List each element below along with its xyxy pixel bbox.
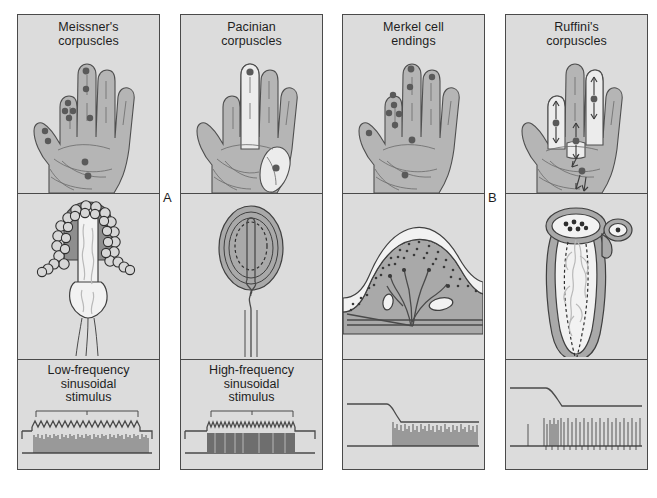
hand-panel-pacinian: Pacinian corpuscles bbox=[180, 14, 323, 194]
meissner-corpuscle-diagram bbox=[18, 194, 158, 357]
trace-panel-pacinian: High-frequency sinusoidal stimulus bbox=[180, 360, 323, 470]
step-stimulus bbox=[347, 404, 479, 422]
panel-title-merkel: Merkel cell endings bbox=[343, 21, 484, 48]
hand-map-merkel bbox=[343, 45, 483, 193]
response-trace-pacinian bbox=[181, 409, 321, 465]
spike-train bbox=[528, 418, 640, 446]
panel-title-ruffini: Ruffini's corpuscles bbox=[506, 21, 647, 48]
trace-panel-ruffini bbox=[505, 360, 648, 470]
step-stimulus bbox=[510, 388, 642, 406]
group-label-a: A bbox=[163, 190, 172, 205]
column-meissner: Meissner's corpuscles bbox=[17, 14, 160, 470]
receptor-panel-pacinian bbox=[180, 194, 323, 360]
stimulus-label-line-1: High-frequency bbox=[181, 364, 322, 378]
sinusoid-stimulus bbox=[32, 421, 140, 427]
column-merkel: Merkel cell endings bbox=[342, 14, 485, 470]
response-trace-merkel bbox=[343, 366, 483, 462]
hand-map-meissner bbox=[18, 45, 158, 193]
ruffini-corpuscle-diagram bbox=[506, 194, 646, 357]
title-line-1: Merkel cell bbox=[383, 20, 444, 34]
receptor-panel-merkel bbox=[342, 194, 485, 360]
title-line-1: Pacinian bbox=[227, 20, 276, 34]
spike-train bbox=[34, 434, 148, 453]
receptor-panel-meissner bbox=[17, 194, 160, 360]
stimulus-label-line-3: stimulus bbox=[181, 391, 322, 405]
response-trace-meissner bbox=[18, 409, 158, 465]
hand-map-ruffini bbox=[506, 45, 646, 193]
stimulus-label-line-2: sinusoidal bbox=[181, 378, 322, 392]
group-label-b: B bbox=[488, 190, 497, 205]
sinusoid-stimulus bbox=[207, 422, 295, 427]
merkel-cell-endings-diagram bbox=[343, 194, 483, 357]
trace-panel-meissner: Low-frequency sinusoidal stimulus bbox=[17, 360, 160, 470]
panel-title-meissner: Meissner's corpuscles bbox=[18, 21, 159, 48]
title-line-1: Ruffini's bbox=[554, 20, 599, 34]
column-pacinian: Pacinian corpuscles bbox=[180, 14, 323, 470]
response-trace-ruffini bbox=[506, 366, 646, 462]
hand-panel-meissner: Meissner's corpuscles bbox=[17, 14, 160, 194]
column-ruffini: Ruffini's corpuscles bbox=[505, 14, 648, 470]
pacinian-corpuscle-diagram bbox=[181, 194, 321, 357]
stimulus-label-line-1: Low-frequency bbox=[18, 364, 159, 378]
hand-map-pacinian bbox=[181, 45, 321, 193]
panel-title-pacinian: Pacinian corpuscles bbox=[181, 21, 322, 48]
hand-outline bbox=[34, 64, 134, 193]
stimulus-label-pacinian: High-frequency sinusoidal stimulus bbox=[181, 364, 322, 405]
title-line-1: Meissner's bbox=[58, 20, 118, 34]
spike-train-dense bbox=[207, 433, 295, 453]
mechanoreceptor-figure: Meissner's corpuscles bbox=[0, 0, 657, 498]
stimulus-label-line-3: stimulus bbox=[18, 391, 159, 405]
receptor-panel-ruffini bbox=[505, 194, 648, 360]
hand-panel-merkel: Merkel cell endings bbox=[342, 14, 485, 194]
trace-panel-merkel bbox=[342, 360, 485, 470]
stimulus-label-line-2: sinusoidal bbox=[18, 378, 159, 392]
stimulus-label-meissner: Low-frequency sinusoidal stimulus bbox=[18, 364, 159, 405]
spike-train bbox=[393, 422, 477, 446]
hand-panel-ruffini: Ruffini's corpuscles bbox=[505, 14, 648, 194]
